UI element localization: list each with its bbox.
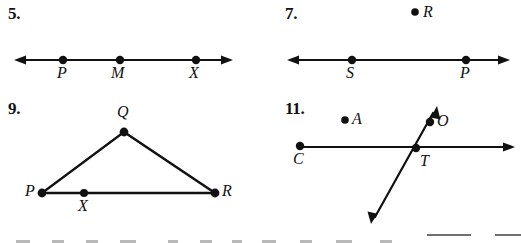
point-label-p11-t: T: [420, 152, 429, 170]
segment-overline-bar-2: [495, 234, 521, 236]
point-dot-p11-o: [426, 118, 434, 126]
point-dot-p11-c: [296, 142, 304, 150]
worksheet-page: 5. P M X 7. S P R 9. Q P R X: [0, 0, 521, 243]
cut-off-bottom-row: [0, 231, 521, 243]
point-dot-p11-a: [341, 116, 349, 124]
point-dot-p11-t: [412, 144, 420, 152]
segment-overline-bar-1: [427, 234, 471, 236]
point-label-p11-o: O: [437, 112, 449, 130]
point-label-p11-c: C: [293, 150, 304, 168]
point-label-p11-a: A: [352, 110, 362, 128]
arrowhead-right-ct: [503, 142, 515, 151]
